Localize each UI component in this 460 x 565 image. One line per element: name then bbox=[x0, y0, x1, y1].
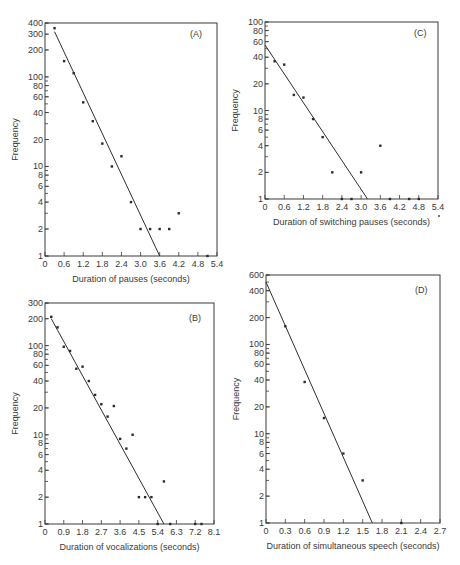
x-tick-label: 0.6 bbox=[278, 202, 291, 212]
data-point bbox=[168, 228, 170, 230]
data-point bbox=[408, 198, 410, 200]
data-point bbox=[113, 405, 115, 407]
x-tick-label: 0.9 bbox=[58, 527, 71, 537]
x-tick-label: 4.2 bbox=[393, 202, 406, 212]
data-point bbox=[158, 228, 160, 230]
y-tick-label: 4 bbox=[259, 464, 264, 474]
y-tick-label: 60 bbox=[254, 359, 264, 369]
x-tick-label: 2.4 bbox=[414, 526, 427, 536]
x-tick-label: 3.6 bbox=[153, 259, 166, 269]
y-tick-label: 60 bbox=[253, 37, 263, 47]
x-tick-label: 2.7 bbox=[95, 527, 108, 537]
y-tick-label: 6 bbox=[258, 125, 263, 135]
data-point bbox=[360, 171, 362, 173]
panel-c-switching-pauses: 12468102040608010000.61.21.82.43.03.64.2… bbox=[230, 17, 444, 227]
y-tick-label: 40 bbox=[254, 375, 264, 385]
data-point bbox=[56, 326, 58, 328]
x-tick-label: 4.8 bbox=[192, 259, 205, 269]
x-tick-label: 3.0 bbox=[355, 202, 368, 212]
y-axis-label: Frequency bbox=[10, 118, 20, 161]
data-point bbox=[69, 350, 71, 352]
y-tick-label: 4 bbox=[258, 141, 263, 151]
data-point bbox=[293, 94, 295, 96]
panel-tag: (C) bbox=[414, 28, 427, 38]
x-tick-label: 3.0 bbox=[134, 259, 147, 269]
data-point bbox=[323, 417, 325, 419]
y-tick-label: 6 bbox=[38, 450, 43, 460]
data-point bbox=[130, 201, 132, 203]
y-tick-label: 6 bbox=[38, 181, 43, 191]
x-tick-label: 1.2 bbox=[337, 526, 350, 536]
x-tick-label: 7.2 bbox=[189, 527, 202, 537]
figure-four-panel-log-frequency-plots: 12468102040608010020030040000.61.21.82.4… bbox=[0, 0, 460, 565]
x-tick-label: 0 bbox=[262, 202, 267, 212]
data-point bbox=[350, 198, 352, 200]
y-tick-label: 8 bbox=[258, 114, 263, 124]
x-axis-label: Duration of simultaneous speech (seconds… bbox=[266, 541, 439, 551]
y-tick-label: 40 bbox=[253, 52, 263, 62]
stray-mark bbox=[438, 215, 440, 217]
data-point bbox=[379, 145, 381, 147]
panel-b-vocalizations: 12468102040608010020030000.91.82.73.64.5… bbox=[10, 298, 220, 552]
y-tick-label: 200 bbox=[28, 314, 43, 324]
y-tick-label: 300 bbox=[28, 298, 43, 308]
x-axis-label: Duration of pauses (seconds) bbox=[72, 274, 190, 284]
data-point bbox=[303, 381, 305, 383]
y-tick-label: 8 bbox=[38, 170, 43, 180]
y-tick-label: 40 bbox=[33, 376, 43, 386]
y-tick-label: 400 bbox=[249, 286, 264, 296]
data-point bbox=[361, 479, 363, 481]
x-tick-label: 2.1 bbox=[395, 526, 408, 536]
y-tick-label: 6 bbox=[259, 449, 264, 459]
x-tick-label: 0.3 bbox=[279, 526, 292, 536]
regression-line bbox=[266, 282, 372, 523]
data-point bbox=[50, 316, 52, 318]
y-tick-label: 100 bbox=[248, 17, 263, 27]
y-tick-label: 20 bbox=[254, 402, 264, 412]
x-tick-label: 8.1 bbox=[208, 527, 221, 537]
data-point bbox=[169, 523, 171, 525]
y-tick-label: 10 bbox=[253, 106, 263, 116]
data-point bbox=[156, 523, 158, 525]
y-axis-label: Frequency bbox=[231, 377, 241, 420]
y-tick-label: 100 bbox=[249, 339, 264, 349]
panel-tag: (D) bbox=[415, 285, 428, 295]
y-tick-label: 40 bbox=[33, 108, 43, 118]
x-tick-label: 4.5 bbox=[133, 527, 146, 537]
data-point bbox=[149, 228, 151, 230]
data-point bbox=[273, 60, 275, 62]
x-tick-label: 1.8 bbox=[376, 526, 389, 536]
x-tick-label: 2.7 bbox=[434, 526, 447, 536]
y-tick-label: 10 bbox=[254, 429, 264, 439]
x-tick-label: 3.6 bbox=[374, 202, 387, 212]
data-point bbox=[120, 155, 122, 157]
x-tick-label: 3.6 bbox=[114, 527, 127, 537]
data-point bbox=[342, 452, 344, 454]
x-tick-label: 0.9 bbox=[318, 526, 331, 536]
data-point bbox=[100, 403, 102, 405]
regression-line bbox=[265, 45, 368, 199]
x-tick-label: 5.4 bbox=[211, 259, 224, 269]
y-tick-label: 200 bbox=[249, 313, 264, 323]
y-tick-label: 2 bbox=[38, 492, 43, 502]
x-tick-label: 1.5 bbox=[356, 526, 369, 536]
y-tick-label: 8 bbox=[259, 437, 264, 447]
y-tick-label: 20 bbox=[33, 135, 43, 145]
y-tick-label: 8 bbox=[38, 438, 43, 448]
y-tick-label: 60 bbox=[33, 92, 43, 102]
y-tick-label: 300 bbox=[28, 29, 43, 39]
y-tick-label: 10 bbox=[33, 161, 43, 171]
data-point bbox=[341, 198, 343, 200]
data-point bbox=[206, 255, 208, 257]
y-axis-label: Frequency bbox=[10, 392, 20, 435]
y-tick-label: 2 bbox=[259, 491, 264, 501]
x-tick-label: 0 bbox=[42, 259, 47, 269]
x-tick-label: 1.8 bbox=[96, 259, 109, 269]
y-tick-label: 4 bbox=[38, 465, 43, 475]
x-tick-label: 1.2 bbox=[77, 259, 90, 269]
data-point bbox=[92, 120, 94, 122]
y-tick-label: 4 bbox=[38, 197, 43, 207]
data-point bbox=[200, 523, 202, 525]
data-point bbox=[106, 415, 108, 417]
y-tick-label: 2 bbox=[38, 224, 43, 234]
